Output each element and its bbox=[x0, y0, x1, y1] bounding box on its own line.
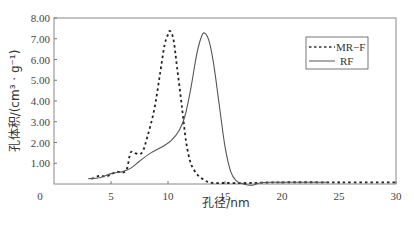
y-tick-label: 6.00 bbox=[31, 54, 51, 66]
x-tick-label: 20 bbox=[277, 190, 289, 202]
origin-label: 0 bbox=[37, 190, 43, 202]
series-line-rf bbox=[88, 33, 327, 185]
legend-label-rf: RF bbox=[340, 55, 353, 67]
y-tick-label: 1.00 bbox=[31, 157, 51, 169]
legend: MR−F RF bbox=[306, 37, 368, 69]
x-tick-label: 25 bbox=[334, 190, 346, 202]
x-axis-title: 孔径/nm bbox=[202, 196, 249, 210]
y-tick-label: 4.00 bbox=[31, 95, 51, 107]
pore-distribution-chart: 1.002.003.004.005.006.007.008.000 510152… bbox=[0, 0, 414, 226]
y-axis-title: 孔体积/(cm³ · g⁻¹) bbox=[8, 50, 22, 153]
y-tick-label: 5.00 bbox=[31, 74, 51, 86]
x-tick-label: 10 bbox=[163, 190, 175, 202]
y-tick-label: 8.00 bbox=[31, 12, 51, 24]
legend-label-mrf: MR−F bbox=[336, 41, 365, 53]
y-tick-label: 3.00 bbox=[31, 116, 51, 128]
x-tick-label: 30 bbox=[391, 190, 403, 202]
y-tick-label: 2.00 bbox=[31, 137, 51, 149]
y-axis-ticks: 1.002.003.004.005.006.007.008.000 bbox=[31, 12, 57, 202]
x-tick-label: 5 bbox=[108, 190, 114, 202]
y-tick-label: 7.00 bbox=[31, 33, 51, 45]
